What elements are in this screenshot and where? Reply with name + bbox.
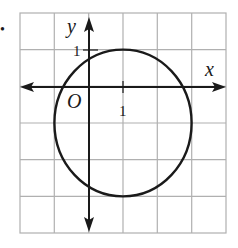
list-bullet: • [0, 22, 5, 37]
grid [20, 13, 226, 233]
x-axis-label: x [204, 58, 214, 80]
y-tick-label: 1 [73, 43, 81, 59]
x-tick-label: 1 [119, 103, 127, 119]
x-axis [20, 81, 226, 93]
origin-label: O [67, 90, 81, 112]
coordinate-graph: • [0, 0, 238, 248]
y-axis-label: y [65, 15, 76, 38]
